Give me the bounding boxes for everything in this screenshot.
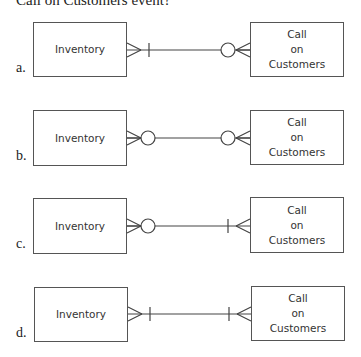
relationship-connector <box>0 22 361 112</box>
relationship-connector <box>0 198 361 288</box>
crows-foot-left-icon <box>127 219 141 233</box>
circle-right-icon <box>221 43 235 57</box>
option-label: b. <box>16 148 27 164</box>
circle-left-icon <box>141 219 155 233</box>
option-b[interactable]: Inventory Call on Customers b. <box>0 110 361 200</box>
relationship-connector <box>0 287 361 357</box>
option-c[interactable]: Inventory Call on Customers c. <box>0 198 361 288</box>
option-label: d. <box>16 325 27 341</box>
option-a[interactable]: Inventory Call on Customers a. <box>0 22 361 112</box>
option-label: c. <box>16 236 26 252</box>
option-d[interactable]: Inventory Call on Customers d. <box>0 287 361 357</box>
circle-right-icon <box>221 131 235 145</box>
relationship-connector <box>0 110 361 200</box>
option-label: a. <box>16 60 26 76</box>
crows-foot-right-icon <box>236 43 250 57</box>
circle-left-icon <box>141 131 155 145</box>
crows-foot-right-icon <box>236 131 250 145</box>
question-prompt: Call on Customers event? <box>16 0 171 9</box>
crows-foot-left-icon <box>127 131 141 145</box>
